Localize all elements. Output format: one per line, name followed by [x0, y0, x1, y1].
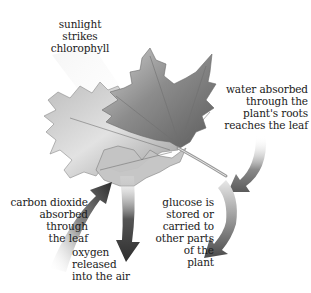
carbon-dioxide-label: carbon dioxide absorbed through the leaf	[0, 196, 88, 244]
glucose-label: glucose is stored or carried to other pa…	[152, 196, 214, 268]
water-label: water absorbed through the plant's roots…	[216, 83, 308, 131]
water-arrow	[228, 136, 266, 192]
oxygen-label: oxygen released into the air	[72, 246, 152, 282]
photosynthesis-diagram: sunlight strikes chlorophyll water absor…	[0, 0, 311, 293]
sunlight-label: sunlight strikes chlorophyll	[44, 18, 116, 54]
